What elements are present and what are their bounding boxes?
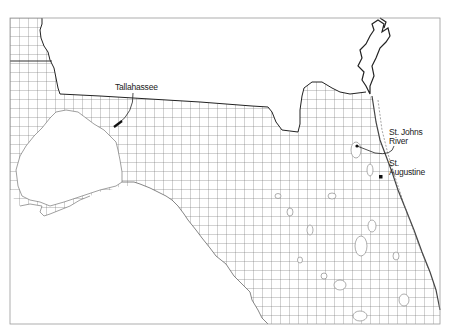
label-tallahassee: Tallahassee bbox=[115, 83, 158, 92]
label-text: River bbox=[389, 137, 423, 146]
st-marys-river bbox=[358, 20, 390, 94]
label-st-johns-river: St. Johns River bbox=[389, 128, 423, 146]
label-text: Tallahassee bbox=[115, 83, 158, 92]
st-augustine-marker bbox=[379, 175, 383, 179]
label-st-augustine: St. Augustine bbox=[389, 159, 425, 177]
florida-township-map bbox=[0, 0, 450, 335]
label-text: Augustine bbox=[389, 168, 425, 177]
st-johns-marker bbox=[355, 144, 358, 147]
